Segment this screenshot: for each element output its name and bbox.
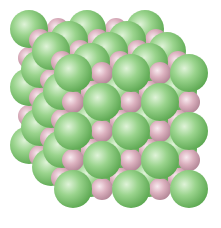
chloride-ion-sphere [54, 112, 92, 150]
chloride-ion-sphere [170, 170, 208, 208]
chloride-ion-sphere [112, 112, 150, 150]
sodium-ion-sphere [178, 149, 200, 171]
sodium-ion-sphere [91, 178, 113, 200]
sodium-ion-sphere [149, 120, 171, 142]
sodium-ion-sphere [178, 91, 200, 113]
chloride-ion-sphere [83, 141, 121, 179]
sodium-ion-sphere [120, 91, 142, 113]
chloride-ion-sphere [83, 83, 121, 121]
chloride-ion-sphere [141, 83, 179, 121]
chloride-ion-sphere [170, 112, 208, 150]
sodium-ion-sphere [149, 62, 171, 84]
chloride-ion-sphere [170, 54, 208, 92]
sodium-ion-sphere [120, 149, 142, 171]
chloride-ion-sphere [54, 170, 92, 208]
sodium-ion-sphere [62, 149, 84, 171]
chloride-ion-sphere [112, 54, 150, 92]
sodium-ion-sphere [62, 91, 84, 113]
crystal-lattice-illustration [0, 0, 221, 228]
chloride-ion-sphere [112, 170, 150, 208]
sodium-ion-sphere [149, 178, 171, 200]
sodium-ion-sphere [91, 62, 113, 84]
chloride-ion-sphere [54, 54, 92, 92]
sodium-ion-sphere [91, 120, 113, 142]
atoms-group [10, 10, 208, 208]
chloride-ion-sphere [141, 141, 179, 179]
